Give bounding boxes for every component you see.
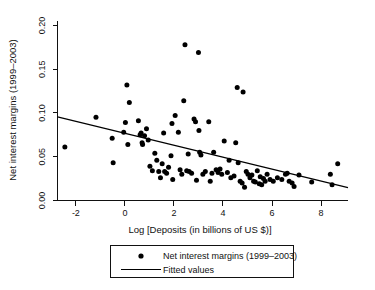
scatter-point xyxy=(218,166,223,171)
scatter-point xyxy=(209,171,214,176)
x-tick-label: 2 xyxy=(171,208,176,218)
scatter-point xyxy=(236,160,241,165)
x-tick-label: -2 xyxy=(72,208,80,218)
scatter-point xyxy=(211,150,216,155)
x-axis-title: Log [Deposits (in billions of US $)] xyxy=(128,224,271,235)
x-axis-ticks: -202468 xyxy=(72,201,324,219)
legend-marker-scatter xyxy=(138,253,143,258)
scatter-point xyxy=(121,130,126,135)
scatter-point xyxy=(285,171,290,176)
scatter-point xyxy=(265,172,270,177)
scatter-point xyxy=(263,179,268,184)
scatter-point xyxy=(169,121,174,126)
scatter-point xyxy=(189,171,194,176)
scatter-point xyxy=(279,177,284,182)
scatter-point xyxy=(169,153,174,158)
scatter-point xyxy=(127,100,132,105)
scatter-point xyxy=(156,169,161,174)
chart-legend: Net interest margins (1999–2003) Fitted … xyxy=(111,246,298,278)
scatter-point xyxy=(219,172,224,177)
scatter-point xyxy=(296,173,301,178)
y-tick-label: 0.15 xyxy=(37,60,47,78)
scatter-point xyxy=(193,119,198,124)
scatter-point xyxy=(179,172,184,177)
scatter-point xyxy=(125,142,130,147)
scatter-point xyxy=(154,158,159,163)
scatter-points xyxy=(62,42,340,190)
scatter-point xyxy=(62,145,67,150)
scatter-point xyxy=(93,115,98,120)
scatter-point xyxy=(161,131,166,136)
scatter-point xyxy=(198,152,203,157)
scatter-point xyxy=(222,138,227,143)
scatter-point xyxy=(292,184,297,189)
scatter-point xyxy=(330,182,335,187)
x-tick-label: 0 xyxy=(122,208,127,218)
scatter-point xyxy=(335,161,340,166)
y-tick-label: 0.05 xyxy=(37,148,47,166)
scatter-point xyxy=(136,118,141,123)
scatter-plot-svg: 0.000.050.100.150.20 -202468 Log [Deposi… xyxy=(0,0,375,290)
y-tick-label: 0.00 xyxy=(37,192,47,210)
scatter-point xyxy=(232,173,237,178)
scatter-point xyxy=(178,167,183,172)
scatter-point xyxy=(166,165,171,170)
scatter-point xyxy=(328,172,333,177)
fitted-values-line xyxy=(58,117,349,188)
scatter-point xyxy=(147,164,152,169)
scatter-point xyxy=(144,126,149,131)
scatter-point xyxy=(160,161,165,166)
scatter-point xyxy=(110,136,115,141)
scatter-point xyxy=(309,180,314,185)
scatter-point xyxy=(241,89,246,94)
scatter-point xyxy=(176,130,181,135)
scatter-point xyxy=(194,178,199,183)
legend-label-scatter: Net interest margins (1999–2003) xyxy=(163,251,297,261)
scatter-point xyxy=(146,138,151,143)
scatter-point xyxy=(233,140,238,145)
x-tick-label: 4 xyxy=(220,208,225,218)
scatter-point xyxy=(150,168,155,173)
scatter-point xyxy=(173,113,178,118)
scatter-point xyxy=(225,170,230,175)
scatter-point xyxy=(196,128,201,133)
chart-figure: 0.000.050.100.150.20 -202468 Log [Deposi… xyxy=(0,0,375,290)
scatter-point xyxy=(182,42,187,47)
scatter-point xyxy=(181,98,186,103)
x-tick-label: 8 xyxy=(319,208,324,218)
scatter-point xyxy=(240,180,245,185)
scatter-point xyxy=(140,142,145,147)
scatter-point xyxy=(196,50,201,55)
scatter-point xyxy=(142,133,147,138)
scatter-point xyxy=(275,175,280,180)
legend-label-fitted: Fitted values xyxy=(163,265,215,275)
scatter-point xyxy=(164,171,169,176)
y-axis-ticks: 0.000.050.100.150.20 xyxy=(37,17,57,210)
scatter-point xyxy=(158,175,163,180)
scatter-point xyxy=(271,179,276,184)
scatter-point xyxy=(249,173,254,178)
scatter-point xyxy=(227,158,232,163)
scatter-point xyxy=(124,82,129,87)
y-tick-label: 0.10 xyxy=(37,104,47,122)
scatter-point xyxy=(255,168,260,173)
scatter-point xyxy=(170,177,175,182)
y-axis-title: Net interest margins (1999–2003) xyxy=(7,39,18,181)
scatter-point xyxy=(152,151,157,156)
y-tick-label: 0.20 xyxy=(37,17,47,35)
scatter-point xyxy=(123,120,128,125)
scatter-point xyxy=(242,185,247,190)
scatter-point xyxy=(186,152,191,157)
x-tick-label: 6 xyxy=(269,208,274,218)
scatter-point xyxy=(235,85,240,90)
scatter-point xyxy=(111,160,116,165)
scatter-point xyxy=(208,179,213,184)
scatter-point xyxy=(203,169,208,174)
scatter-point xyxy=(206,119,211,124)
